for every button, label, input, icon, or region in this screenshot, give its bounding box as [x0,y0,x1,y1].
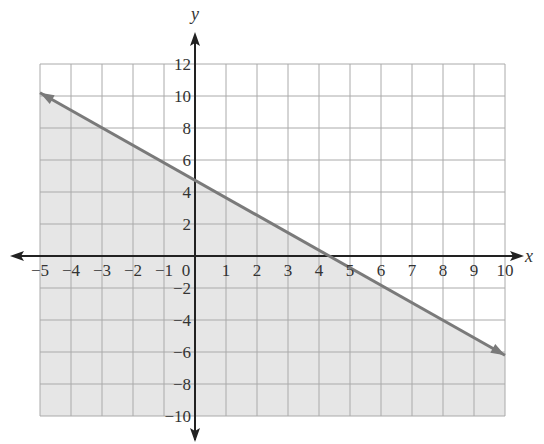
svg-text:2: 2 [183,215,192,234]
shaded-region [40,93,505,416]
svg-text:−1: −1 [155,261,173,280]
svg-text:−6: −6 [173,343,191,362]
svg-text:−2: −2 [173,279,191,298]
svg-text:−4: −4 [62,261,81,280]
svg-text:4: 4 [315,261,324,280]
svg-text:−10: −10 [164,407,191,426]
svg-text:9: 9 [470,261,479,280]
svg-text:10: 10 [497,261,514,280]
svg-text:5: 5 [346,261,355,280]
svg-text:8: 8 [439,261,448,280]
svg-text:12: 12 [174,55,191,74]
svg-text:6: 6 [183,151,192,170]
svg-text:3: 3 [284,261,293,280]
svg-text:−4: −4 [173,311,192,330]
svg-text:−8: −8 [173,375,191,394]
svg-text:1: 1 [222,261,231,280]
svg-text:−2: −2 [124,261,142,280]
svg-text:8: 8 [183,119,192,138]
x-axis-label: x [524,246,533,266]
y-axis-label: y [189,4,199,24]
svg-text:0: 0 [182,261,191,280]
inequality-graph: −5−4−3−2−1012345678910−10−8−6−4−22468101… [0,0,544,444]
svg-text:6: 6 [377,261,386,280]
svg-text:−5: −5 [31,261,49,280]
svg-text:7: 7 [408,261,417,280]
svg-text:4: 4 [183,183,192,202]
svg-text:10: 10 [174,87,191,106]
svg-text:−3: −3 [93,261,111,280]
svg-text:2: 2 [253,261,262,280]
